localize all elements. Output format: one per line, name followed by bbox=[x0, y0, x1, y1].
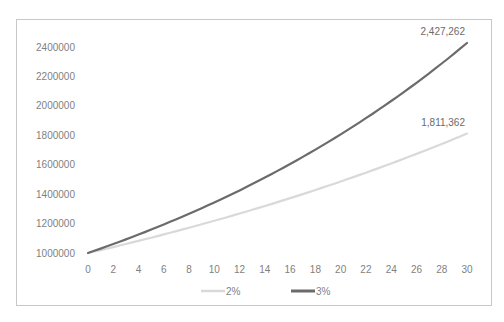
end-value-label: 1,811,362 bbox=[421, 117, 465, 128]
y-tick-label: 1200000 bbox=[36, 218, 75, 229]
y-tick-label: 2000000 bbox=[36, 100, 75, 111]
y-tick-label: 1600000 bbox=[36, 159, 75, 170]
x-tick-label: 24 bbox=[386, 264, 398, 275]
x-tick-label: 20 bbox=[335, 264, 347, 275]
x-tick-label: 30 bbox=[461, 264, 473, 275]
series-line-3pct bbox=[88, 43, 467, 253]
y-axis: 1000000120000014000001600000180000020000… bbox=[36, 42, 75, 259]
x-axis: 024681012141618202224262830 bbox=[85, 264, 473, 275]
y-tick-label: 2400000 bbox=[36, 42, 75, 53]
legend-label: 3% bbox=[316, 286, 331, 297]
x-tick-label: 16 bbox=[285, 264, 297, 275]
x-tick-label: 10 bbox=[209, 264, 221, 275]
y-tick-label: 2200000 bbox=[36, 71, 75, 82]
x-tick-label: 26 bbox=[411, 264, 423, 275]
legend: 2%3% bbox=[201, 286, 331, 297]
line-chart: 1000000120000014000001600000180000020000… bbox=[17, 20, 493, 307]
end-value-label: 2,427,262 bbox=[421, 26, 466, 37]
x-tick-label: 12 bbox=[234, 264, 246, 275]
x-tick-label: 6 bbox=[161, 264, 167, 275]
data-labels: 1,811,3622,427,262 bbox=[421, 26, 466, 128]
x-tick-label: 28 bbox=[436, 264, 448, 275]
x-tick-label: 8 bbox=[186, 264, 192, 275]
y-tick-label: 1800000 bbox=[36, 130, 75, 141]
x-tick-label: 0 bbox=[85, 264, 91, 275]
legend-label: 2% bbox=[226, 286, 241, 297]
x-tick-label: 4 bbox=[136, 264, 142, 275]
series-lines bbox=[88, 43, 467, 253]
x-tick-label: 22 bbox=[360, 264, 372, 275]
x-tick-label: 18 bbox=[310, 264, 322, 275]
chart-container: 1000000120000014000001600000180000020000… bbox=[16, 19, 492, 306]
y-tick-label: 1400000 bbox=[36, 189, 75, 200]
x-tick-label: 2 bbox=[110, 264, 116, 275]
series-line-2pct bbox=[88, 134, 467, 253]
x-tick-label: 14 bbox=[259, 264, 271, 275]
y-tick-label: 1000000 bbox=[36, 248, 75, 259]
